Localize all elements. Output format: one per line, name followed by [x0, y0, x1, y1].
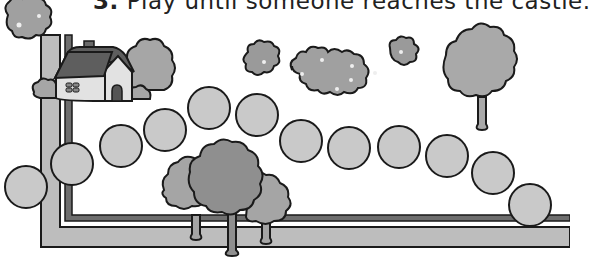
flower-bushes-center — [243, 36, 418, 95]
door-icon — [112, 85, 122, 101]
board-space-4[interactable] — [144, 109, 186, 151]
board-space-9[interactable] — [378, 126, 420, 168]
board-space-10[interactable] — [426, 135, 468, 177]
board-space-6[interactable] — [236, 94, 278, 136]
board-space-5[interactable] — [188, 87, 230, 129]
board-space-1[interactable] — [5, 166, 47, 208]
tree-right — [443, 23, 517, 130]
board-space-2[interactable] — [51, 143, 93, 185]
board-space-11[interactable] — [472, 152, 514, 194]
board-space-3[interactable] — [100, 125, 142, 167]
board-space-8[interactable] — [328, 127, 370, 169]
flower-bush-top-left — [5, 0, 51, 39]
board-space-12[interactable] — [509, 184, 551, 226]
board-space-7[interactable] — [280, 120, 322, 162]
